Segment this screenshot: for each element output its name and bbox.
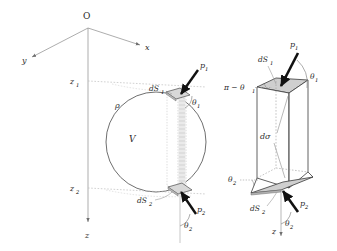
dS2-label-left: dS	[137, 196, 147, 205]
dS2-label-group-left: dS 2	[137, 192, 172, 207]
p1-label-sub-left: 1	[205, 66, 208, 72]
theta2-label-group-left: θ 2	[184, 221, 192, 232]
z-axis-label-right: z	[271, 227, 276, 236]
coordinate-axes	[32, 28, 140, 222]
z1-label-group: z 1	[69, 77, 79, 88]
dS2-label-group-right: dS 2	[250, 192, 277, 215]
dS1-label-group-left: dS 1	[149, 84, 172, 95]
y-axis-label: y	[21, 56, 27, 65]
supplement-angle-sub: 1	[252, 88, 255, 94]
dS1-label-sub-left: 1	[161, 89, 164, 95]
z2-label-sub: 2	[75, 189, 79, 195]
p2-label-sub-left: 2	[201, 210, 205, 216]
p2-arrow-right	[283, 191, 298, 212]
p2-arrow-left	[181, 192, 196, 214]
dS1-label-right: dS	[258, 55, 268, 64]
z2-label: z	[69, 184, 74, 193]
diagram-canvas: O x y z z 1 z 2 ρ V	[0, 0, 337, 251]
z2-label-group: z 2	[69, 184, 79, 195]
dS2-label-sub-right: 2	[261, 209, 265, 215]
theta1-label-sub-left: 1	[197, 103, 200, 109]
x-axis-line	[88, 28, 140, 45]
dS2-leader-left	[155, 192, 172, 200]
elementary-column-left	[167, 94, 186, 191]
theta2-label-sub-right: 2	[232, 180, 236, 186]
z-axis-label: z	[84, 231, 90, 240]
volume-v-label: V	[129, 134, 137, 144]
x-axis-label: x	[145, 43, 150, 52]
prism-bottom-right-connector	[308, 172, 313, 177]
cross-section-label: dσ	[260, 132, 271, 141]
dS2-leader-right	[267, 192, 277, 206]
dS1-label-left: dS	[149, 84, 159, 93]
theta2-label-sub-right-2: 2	[289, 224, 293, 230]
theta2-label-group-right: θ 2	[228, 175, 258, 186]
p1-arrow-left	[181, 70, 198, 94]
theta2-arc-right	[252, 180, 254, 186]
origin-label: O	[83, 11, 90, 21]
column-body-shade	[179, 97, 186, 189]
theta2-label-sub-left: 2	[188, 226, 192, 232]
dS1-label-sub-right: 1	[270, 60, 273, 66]
theta1-label-group-right: θ 1	[310, 72, 318, 83]
physics-diagram: O x y z z 1 z 2 ρ V	[0, 0, 337, 251]
dS1-patch	[166, 88, 190, 99]
p1-label-group-right: p 1	[290, 40, 298, 51]
theta2-label-group-right-2: θ 2	[285, 219, 293, 230]
sphere-circle	[106, 92, 206, 192]
p2-label-sub-right: 2	[304, 204, 308, 210]
p2-label-group-right: p 2	[300, 199, 308, 210]
theta1-label-group-left: θ 1	[192, 98, 200, 109]
p2-label-group-left: p 2	[197, 205, 205, 216]
y-axis-line	[32, 28, 88, 57]
p1-label-sub-right: 1	[295, 45, 298, 51]
boundary-rho-label: ρ	[114, 101, 120, 110]
sphere-outline	[106, 92, 206, 192]
dS2-label-right: dS	[250, 204, 260, 213]
supplement-angle-label: π − θ	[223, 83, 245, 92]
theta1-label-sub-right: 1	[315, 77, 318, 83]
z1-label: z	[69, 77, 74, 86]
z1-label-sub: 1	[76, 82, 79, 88]
p1-label-group-left: p 1	[200, 61, 208, 72]
dS2-label-sub-left: 2	[148, 201, 152, 207]
